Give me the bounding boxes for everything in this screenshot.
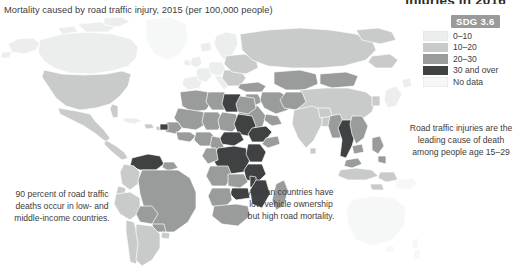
map-legend: 0–10 10–20 20–30 30 and over No data (423, 30, 518, 88)
legend-swatch (423, 66, 448, 76)
legend-swatch (423, 43, 448, 53)
legend-item: 10–20 (423, 42, 518, 54)
legend-label: No data (453, 78, 483, 87)
annotation-low-middle-income: 90 percent of road traffic deaths occur … (4, 188, 120, 225)
annotation-african-countries: African countries have low vehicle owner… (243, 186, 339, 223)
legend-swatch (423, 77, 448, 87)
legend-label: 20–30 (453, 55, 477, 64)
map-svg: .c0 { fill:#eceded; } /* 0-10 */ .c1 { f… (0, 14, 420, 267)
legend-swatch (423, 54, 448, 64)
legend-label: 30 and over (453, 66, 498, 75)
world-choropleth-map: .c0 { fill:#eceded; } /* 0-10 */ .c1 { f… (0, 14, 420, 267)
cut-off-headline: injuries in 2016 (405, 0, 506, 4)
sdg-badge: SDG 3.6 (451, 15, 500, 28)
legend-item: 0–10 (423, 30, 518, 42)
map-countries (1, 17, 420, 266)
legend-label: 10–20 (453, 43, 477, 52)
annotation-road-traffic-leading-cause: Road traffic injuries are the leading ca… (405, 122, 517, 159)
legend-item: 30 and over (423, 65, 518, 77)
legend-swatch (423, 31, 448, 41)
legend-label: 0–10 (453, 32, 472, 41)
legend-item: No data (423, 76, 518, 88)
legend-item: 20–30 (423, 53, 518, 65)
